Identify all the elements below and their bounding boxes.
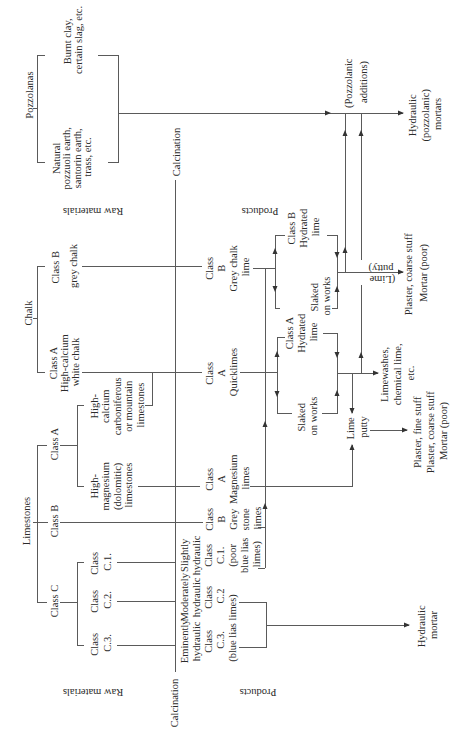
text-line: pozzuoli earth, [61,127,72,189]
text-line: hydraulic [191,577,202,617]
arrow-up-icon [335,390,340,396]
text-line: Plaster, coarse stuff [425,391,436,473]
text-line: hydraulic [191,621,202,661]
text-line: Plaster, coarse stuff [403,233,414,315]
pozzolanas-label: Pozzolanas [24,71,35,118]
class-a-hydration-right-bracket [322,333,378,413]
text-line: A [216,369,227,377]
text-line: Plaster, fine stuff [412,396,423,468]
text-line: High- [89,474,100,499]
text-line: Class [203,544,214,567]
pozzolanas-raw-bracket [33,55,45,162]
class-a-hydrated-lime: Class A Hydrated lime [284,311,319,353]
text-line: on works [308,397,319,436]
text-line: limes [240,467,251,490]
lime-classification-diagram: Raw materials Raw materials Products Pro… [0,0,468,741]
text-line: C.2 [215,589,226,604]
calcination-label-top: Calcination [171,127,182,176]
text-line: Hydraulic [407,94,418,136]
arrow-down-icon [335,252,340,258]
text-line: grey chalk [68,243,79,288]
text-line: C.1. [215,547,226,565]
text-line: lime [308,322,319,341]
text-line: santorin earth, [72,128,83,188]
limewashes: Limewashes, chemical lime, etc. [379,341,416,405]
text-line: Eminently [179,619,190,663]
natural-pozzolanas: Natural pozzuoli earth, santorin earth, … [51,124,94,189]
text-line: High-calcium [59,334,70,392]
text-line: Grey chalk [228,244,239,291]
text-line: C.2. [102,591,113,609]
limestone-class-c1: Class C.1. [89,549,113,574]
arrow-right-icon [398,111,404,116]
arrow-up-icon [263,421,268,427]
text-line: Magnesium [228,455,239,505]
text-line: Hydraulic [416,605,427,647]
product-slightly-hydraulic: Slightly hydraulic Class C.1. (poor blue… [179,533,263,575]
arrow-down-icon [275,391,280,397]
text-line: Quicklimes [228,348,239,396]
text-line: Class A [48,346,59,379]
text-line: Grey [228,508,239,530]
product-grey-stone-limes: Class B Grey stone limes [204,505,263,530]
arrow-right-icon [404,623,410,628]
text-line: putty [358,415,369,437]
product-eminently-hydraulic: Eminently hydraulic Class C.3. [179,617,226,663]
text-line: Moderately [179,572,190,621]
product-grey-chalk-lime: Class B Grey chalk lime [204,243,251,292]
text-line: limestones [123,463,134,508]
artificial-pozzolanas: Burnt clay, certain slag, etc. [62,6,84,74]
text-line: Class [203,586,214,609]
text-line: blue lias [239,538,250,573]
class-b-hydration-left-bracket [275,235,285,308]
text-line: limestones [135,383,146,428]
limestones-label: Limestones [21,497,32,545]
text-line: limes) [251,540,263,567]
text-line: Slightly [179,538,190,572]
arrow-down-icon [335,352,340,358]
text-line: lime [310,217,321,236]
text-line: (dolomitic) [112,462,124,510]
arrow-up-icon [275,351,280,357]
text-line: white chalk [70,337,81,386]
text-line: on works [321,277,332,316]
class-a-slaked-on-works: Slaked on works [296,397,319,436]
text-line: Burnt clay, [62,18,73,64]
arrow-up-icon [350,444,355,450]
text-line: B [216,516,227,523]
calcination-label-bottom: Calcination [169,678,180,727]
text-line: additions) [358,61,370,103]
text-line: Natural [51,142,62,174]
text-line: High- [89,394,100,419]
high-calcium-limestone: High- calcium carboniferous or mountain … [89,375,146,435]
text-line: limes [252,507,263,530]
text-line: A [216,475,227,483]
hydraulic-pozzolanic-mortars: Hydraulic (pozzolanic) mortars [407,86,443,141]
chalk-label: Chalk [23,300,34,326]
raw-materials-label-top: Raw materials [63,206,123,217]
arrow-up-icon [335,286,340,292]
text-line: Class [204,257,215,280]
text-line: C.3. [215,631,226,649]
text-line: Class [204,362,215,385]
products-label-bottom: Products [240,687,277,698]
arrow-up-icon [343,247,348,253]
text-line: certain slag, etc. [73,6,84,74]
lime-putty: Lime putty [345,415,369,440]
text-line: trass, etc. [82,137,93,176]
limestones-bracket [33,445,48,602]
text-line: B [216,265,227,272]
class-c-connectors [117,562,175,645]
arrow-down-icon [350,408,355,414]
text-line: (poor [227,543,239,566]
products-label-top: Products [242,206,279,217]
text-line: Hydrated [298,208,309,248]
arrow-right-icon [325,111,331,116]
arrow-up-icon [273,248,278,254]
product-moderately-hydraulic: Moderately hydraulic Class C.2 [179,570,226,621]
high-magnesium-limestone: High- magnesium (dolomitic) limestones [89,459,135,510]
text-line: Mortar (poor) [438,401,450,460]
text-line: Class A [284,316,295,349]
text-line: Class [204,468,215,491]
text-line: chemical lime, [392,343,403,405]
